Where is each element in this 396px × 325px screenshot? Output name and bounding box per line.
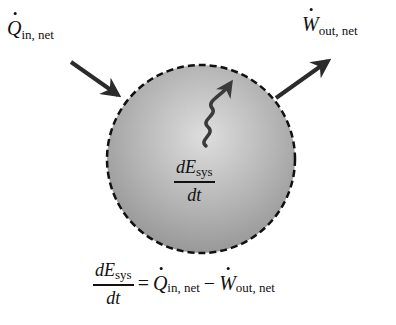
inner-numerator: dEsys [174,157,215,179]
equation-heat-term: Q [153,272,167,295]
inner-denominator: dt [185,185,203,205]
inner-numerator-text: dE [176,157,196,177]
equation-numerator-text: dE [95,260,115,280]
equation-work-symbol: W [219,272,236,294]
equation-work-term: W [219,272,236,295]
minus-sign: − [204,272,215,295]
equation-heat-symbol: Q [153,272,167,294]
inner-fraction: dEsys dt [174,157,215,205]
equation-work-subscript: out, net [236,280,275,296]
rate-dot-icon [310,8,313,11]
heat-input-subscript: in, net [21,27,54,42]
work-output-subscript: out, net [319,23,358,38]
equation-lhs-fraction: dEsys dt [93,260,134,308]
heat-input-label: Qin, net [7,17,54,40]
rate-dot-icon [160,267,163,270]
equation-denominator: dt [104,288,122,308]
rate-dot-icon [227,267,230,270]
heat-input-arrow-icon [71,62,118,95]
system-energy-rate-label: dEsys dt [174,157,215,205]
equation-numerator-subscript: sys [115,267,132,282]
work-rate-symbol: W [302,13,319,36]
inner-numerator-subscript: sys [196,164,213,179]
fraction-bar [174,181,215,183]
equation-numerator: dEsys [93,260,134,282]
work-symbol-text: W [302,13,319,35]
equation-heat-subscript: in, net [167,280,200,296]
work-output-arrow-icon [276,61,328,98]
equals-sign: = [138,272,149,295]
heat-rate-symbol: Q [7,17,21,40]
heat-symbol-text: Q [7,17,21,39]
work-output-label: Wout, net [302,13,358,36]
rate-dot-icon [14,12,17,15]
energy-balance-equation: dEsys dt = Qin, net − Wout, net [93,260,275,308]
fraction-bar [93,284,134,286]
